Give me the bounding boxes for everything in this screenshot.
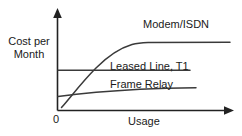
series-label-frame-relay: Frame Relay — [110, 78, 173, 90]
x-axis-arrow-icon — [224, 106, 234, 115]
series-label-modem-isdn: Modem/ISDN — [143, 18, 209, 30]
x-axis-label: Usage — [128, 115, 160, 127]
series-label-leased-line-t1: Leased Line, T1 — [110, 60, 189, 72]
origin-label: 0 — [53, 113, 59, 125]
y-axis-label-line-1: Cost per — [2, 35, 56, 48]
y-axis-arrow-icon — [53, 8, 62, 18]
y-axis-label: Cost per Month — [2, 35, 56, 61]
series-line-modem-isdn — [62, 42, 231, 107]
chart-figure: Cost per Month Usage 0 Modem/ISDN Leased… — [0, 0, 242, 136]
y-axis-label-line-2: Month — [2, 48, 56, 61]
